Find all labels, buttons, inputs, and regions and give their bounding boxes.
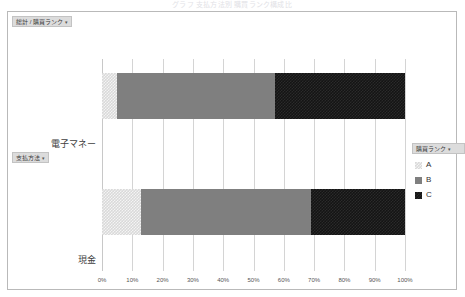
x-tick-label: 0%: [98, 277, 107, 283]
series-b-swatch: [415, 177, 422, 184]
x-tick-label: 20%: [157, 277, 169, 283]
legend-field-button[interactable]: 購買ランク▾: [412, 143, 465, 154]
legend-item[interactable]: A: [412, 161, 465, 169]
bar-segment-c[interactable]: [311, 189, 405, 235]
gridline: [405, 59, 406, 271]
chevron-down-icon: ▾: [448, 146, 451, 152]
chart-frame: 総計 / 購買ランク▾ 支払方法▾ 電子マネー 現金 0%10%20%30%40…: [7, 11, 457, 290]
field-button-values[interactable]: 総計 / 購買ランク▾: [12, 16, 72, 27]
series-c-swatch: [415, 192, 422, 199]
field-button-values-label: 総計 / 購買ランク: [16, 19, 63, 25]
bar-segment-c[interactable]: [275, 73, 405, 119]
legend-item-label: B: [426, 176, 431, 184]
category-axis: 電子マネー 現金: [8, 59, 102, 271]
legend: 購買ランク▾ ABC: [412, 143, 465, 199]
bar-segment-a[interactable]: [102, 73, 117, 119]
chevron-down-icon: ▾: [65, 19, 68, 25]
bar-row[interactable]: [102, 189, 405, 235]
x-tick-label: 70%: [308, 277, 320, 283]
legend-item-label: A: [426, 161, 431, 169]
x-tick-label: 90%: [369, 277, 381, 283]
plot-area: [102, 59, 405, 271]
x-tick-label: 100%: [397, 277, 412, 283]
bar-segment-b[interactable]: [117, 73, 275, 119]
legend-item[interactable]: C: [412, 191, 465, 199]
x-tick-label: 10%: [126, 277, 138, 283]
legend-title-label: 購買ランク: [416, 146, 446, 152]
legend-items: ABC: [412, 161, 465, 199]
category-label: 電子マネー: [51, 137, 96, 150]
clipped-title-strip: グラフ 支払方法別 購買ランク構成比: [0, 0, 464, 9]
x-tick-label: 60%: [278, 277, 290, 283]
bar-row[interactable]: [102, 73, 405, 119]
series-a-swatch: [415, 162, 422, 169]
legend-item[interactable]: B: [412, 176, 465, 184]
bar-segment-a[interactable]: [102, 189, 141, 235]
bar-segment-b[interactable]: [141, 189, 311, 235]
x-tick-label: 40%: [217, 277, 229, 283]
x-tick-label: 80%: [338, 277, 350, 283]
x-tick-label: 50%: [247, 277, 259, 283]
category-label: 現金: [78, 253, 96, 266]
x-tick-label: 30%: [187, 277, 199, 283]
legend-item-label: C: [426, 191, 432, 199]
